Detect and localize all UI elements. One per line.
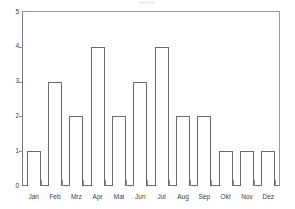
scan-artifact [139, 1, 155, 4]
y-axis-tick-label: 0 [7, 183, 19, 190]
bar [155, 47, 169, 186]
y-axis-tick-label: 1 [7, 148, 19, 155]
bar [240, 151, 254, 186]
y-axis-tick-label: 3 [7, 78, 19, 85]
bar [91, 47, 105, 186]
bar-chart: 012345 JanFebMrzAprMaiJunJulAugSepOktNov… [0, 0, 295, 209]
bar [176, 116, 190, 186]
bar [112, 116, 126, 186]
bars-layer [23, 12, 279, 186]
bar [27, 151, 41, 186]
y-axis-tick-label: 5 [7, 9, 19, 16]
bar [69, 116, 83, 186]
y-axis-tick-label: 4 [7, 43, 19, 50]
bar [219, 151, 233, 186]
y-axis-tick-label: 2 [7, 113, 19, 120]
bar [133, 82, 147, 186]
bar [197, 116, 211, 186]
x-axis-tick-label: Dez [256, 193, 280, 200]
bar [48, 82, 62, 186]
bar [261, 151, 275, 186]
